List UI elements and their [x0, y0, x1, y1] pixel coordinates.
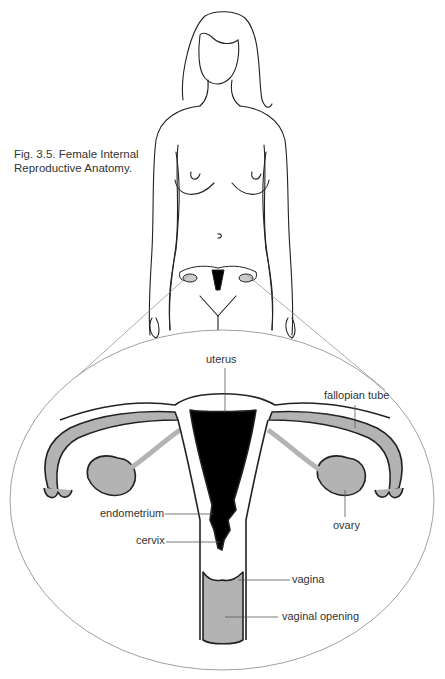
label-uterus: uterus [206, 353, 237, 365]
label-vagina: vagina [292, 573, 324, 585]
body-outline [149, 12, 295, 338]
caption-line-1: Fig. 3.5. Female Internal [14, 147, 139, 161]
body-uterus-thumbnail [179, 266, 256, 290]
label-cervix: cervix [136, 534, 165, 546]
label-ovary: ovary [333, 519, 360, 531]
anatomy-figure [0, 0, 445, 679]
caption-line-2: Reproductive Anatomy. [14, 161, 139, 175]
label-fallopian-tube: fallopian tube [324, 389, 389, 401]
figure-caption: Fig. 3.5. Female Internal Reproductive A… [14, 147, 139, 175]
label-vaginal-opening: vaginal opening [282, 610, 359, 622]
label-endometrium: endometrium [100, 507, 164, 519]
